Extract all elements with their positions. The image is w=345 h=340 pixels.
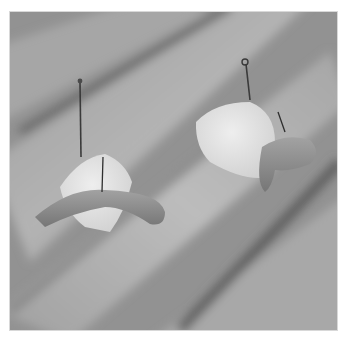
fingers-with-baited-hooks	[10, 12, 337, 330]
photo	[10, 12, 337, 330]
